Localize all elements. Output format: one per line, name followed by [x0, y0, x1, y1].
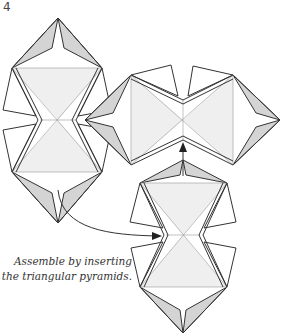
- assembly-illustration: [0, 0, 293, 335]
- caption-line-1: Assemble by inserting: [0, 254, 132, 269]
- left-unit: [3, 18, 111, 223]
- caption-line-2: the triangular pyramids.: [0, 269, 132, 284]
- origami-diagram: 4: [0, 0, 293, 335]
- bottom-unit: [130, 160, 236, 333]
- instruction-caption: Assemble by inserting the triangular pyr…: [0, 254, 132, 284]
